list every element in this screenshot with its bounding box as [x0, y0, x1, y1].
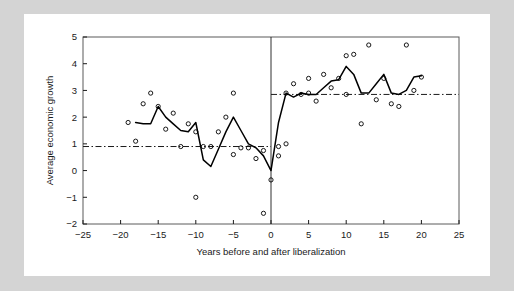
y-axis-tick-label: −1 — [66, 192, 77, 203]
y-axis-tick-label: 5 — [72, 31, 77, 42]
y-axis-label: Average economic growth — [44, 76, 55, 186]
y-axis-tick-label: 2 — [72, 112, 77, 123]
y-axis-tick-label: 3 — [72, 85, 77, 96]
y-axis-tick-label: 0 — [72, 165, 77, 176]
x-axis-tick-label: 20 — [416, 229, 427, 240]
x-axis-tick-label: 0 — [268, 229, 273, 240]
x-axis-tick-label: 5 — [306, 229, 311, 240]
x-axis-tick-label: −15 — [150, 229, 166, 240]
x-axis-tick-label: 10 — [341, 229, 352, 240]
x-axis-tick-label: 15 — [379, 229, 390, 240]
x-axis-tick-label: −10 — [188, 229, 204, 240]
x-axis-tick-label: −25 — [75, 229, 91, 240]
y-axis-tick-label: −2 — [66, 218, 77, 229]
economic-growth-chart: −2−1012345−25−20−15−10−50510152025Years … — [0, 0, 514, 291]
x-axis-tick-label: 25 — [454, 229, 465, 240]
figure-container: −2−1012345−25−20−15−10−50510152025Years … — [0, 0, 514, 291]
y-axis-tick-label: 4 — [72, 58, 77, 69]
x-axis-tick-label: −20 — [113, 229, 129, 240]
x-axis-tick-label: −5 — [228, 229, 239, 240]
y-axis-tick-label: 1 — [72, 138, 77, 149]
x-axis-label: Years before and after liberalization — [196, 246, 345, 257]
